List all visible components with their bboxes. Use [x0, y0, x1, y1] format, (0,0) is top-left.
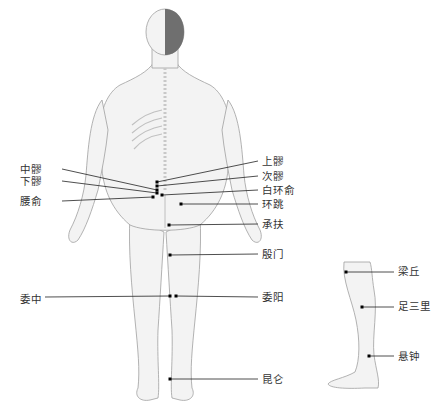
acupoint-marker-liangqiu — [345, 271, 348, 274]
head-shading — [165, 9, 184, 55]
label-zusanli: 足三里 — [398, 300, 431, 312]
label-weiyang: 委阳 — [262, 291, 284, 303]
acupoint-marker-kunlun — [169, 378, 172, 381]
acupoint-marker-xialiao — [156, 192, 159, 195]
label-ciliao: 次髎 — [262, 170, 284, 182]
acupoint-marker-weizhong — [169, 295, 172, 298]
label-liangqiu: 梁丘 — [398, 265, 420, 277]
acupoint-marker-yinmen — [169, 254, 172, 257]
acupoint-marker-huantiao — [180, 203, 183, 206]
acupoint-marker-zusanli — [361, 306, 364, 309]
label-weizhong: 委中 — [20, 293, 42, 305]
lateral-leg-figure — [328, 262, 379, 388]
label-yaoshu: 腰俞 — [20, 195, 42, 207]
label-yinmen: 殷门 — [262, 248, 284, 260]
label-kunlun: 昆仑 — [262, 373, 284, 385]
acupoint-marker-zhongliao — [156, 189, 159, 192]
body-illustration — [0, 0, 447, 416]
label-zhongliao: 中髎 — [20, 163, 42, 175]
acupoint-diagram: 中髎下髎腰俞委中上髎次髎白环俞环跳承扶殷门委阳昆仑梁丘足三里悬钟 — [0, 0, 447, 416]
label-chengfu: 承扶 — [262, 218, 284, 230]
acupoint-marker-chengfu — [168, 224, 171, 227]
acupoint-marker-ciliao — [156, 185, 159, 188]
acupoint-marker-baihuanshu — [161, 194, 164, 197]
label-xuanzhong: 悬钟 — [398, 350, 420, 362]
label-xialiao: 下髎 — [20, 175, 42, 187]
acupoint-marker-xuanzhong — [368, 355, 371, 358]
acupoint-marker-weiyang — [175, 295, 178, 298]
acupoint-marker-shangliao — [156, 181, 159, 184]
label-shangliao: 上髎 — [262, 155, 284, 167]
label-huantiao: 环跳 — [262, 198, 284, 210]
acupoint-marker-yaoshu — [152, 196, 155, 199]
label-baihuanshu: 白环俞 — [262, 184, 295, 196]
